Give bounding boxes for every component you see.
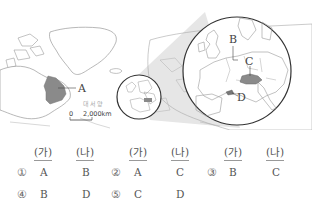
choice-4-na: D <box>82 188 90 200</box>
header-ga-3: (가) <box>224 144 242 161</box>
header-na-3: (나) <box>266 144 284 161</box>
choice-5-number[interactable]: ⑤ <box>111 188 121 200</box>
header-ga-1: (가) <box>34 144 52 161</box>
choice-3-number[interactable]: ③ <box>207 166 217 178</box>
choice-4-ga: B <box>40 188 48 200</box>
scale-zero: 0 <box>69 110 73 118</box>
header-na-1: (나) <box>76 144 94 161</box>
choice-5-ga: C <box>134 188 142 200</box>
map-graphic <box>0 0 312 130</box>
choice-2-ga: A <box>134 166 142 178</box>
choice-3-na: C <box>272 166 280 178</box>
header-na-2: (나) <box>171 144 189 161</box>
choice-1-ga: A <box>40 166 48 178</box>
choice-2-na: C <box>176 166 184 178</box>
atlantic-ocean-label: 대서양 <box>83 99 104 108</box>
choice-1-number[interactable]: ① <box>17 166 27 178</box>
label-d: D <box>237 92 246 103</box>
header-ga-2: (가) <box>129 144 147 161</box>
label-b: B <box>229 34 237 45</box>
choice-2-number[interactable]: ② <box>111 166 121 178</box>
label-a: A <box>78 83 86 94</box>
choice-4-number[interactable]: ④ <box>17 188 27 200</box>
choice-3-ga: B <box>229 166 237 178</box>
world-map: A 대서양 0 2,000km B C D <box>0 0 312 130</box>
scale-distance: 2,000km <box>83 110 112 118</box>
choice-5-na: D <box>176 188 184 200</box>
label-c: C <box>245 56 253 67</box>
choice-1-na: B <box>82 166 90 178</box>
